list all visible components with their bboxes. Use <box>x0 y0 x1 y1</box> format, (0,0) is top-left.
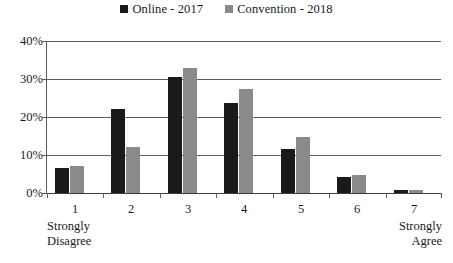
x-category-4: 4 <box>216 202 272 217</box>
x-axis-line <box>46 193 441 194</box>
y-tick-label: 20% <box>3 111 43 124</box>
x-tick-mark <box>386 193 387 198</box>
x-tick-mark <box>160 193 161 198</box>
bar-group <box>103 41 159 193</box>
x-tick-label: 1 <box>47 202 103 217</box>
bar-online-2017 <box>337 177 351 193</box>
bar-group <box>47 41 103 193</box>
x-tick-label: 5 <box>273 202 329 217</box>
bar-online-2017 <box>55 168 69 193</box>
x-category-6: 6 <box>329 202 385 217</box>
y-tick-label: 30% <box>3 73 43 86</box>
x-category-7: 7 Strongly Agree <box>386 202 442 248</box>
y-axis-labels: 40% 30% 20% 10% 0% <box>0 0 43 263</box>
bar-group <box>216 41 272 193</box>
x-category-5: 5 <box>273 202 329 217</box>
bar-online-2017 <box>111 109 125 193</box>
x-category-3: 3 <box>160 202 216 217</box>
x-category-1: 1 Strongly Disagree <box>47 202 103 248</box>
legend-swatch-icon <box>120 5 128 13</box>
x-tick-label: 2 <box>103 202 159 217</box>
y-tick-label: 40% <box>3 35 43 48</box>
bar-chart: Online - 2017 Convention - 2018 40% 30% … <box>0 0 453 263</box>
x-tick-mark <box>441 193 442 198</box>
bar-convention-2018 <box>126 147 140 193</box>
x-tick-mark <box>216 193 217 198</box>
bar-online-2017 <box>394 190 408 193</box>
bar-group <box>160 41 216 193</box>
bar-convention-2018 <box>183 68 197 193</box>
legend-label: Online - 2017 <box>132 3 203 16</box>
x-tick-label: 3 <box>160 202 216 217</box>
bar-convention-2018 <box>296 137 310 193</box>
x-axis-endpoint-label: Strongly Agree <box>386 219 442 249</box>
x-tick-label: 4 <box>216 202 272 217</box>
x-tick-mark <box>103 193 104 198</box>
legend-entry-online-2017: Online - 2017 <box>120 3 203 16</box>
plot-area <box>47 41 441 193</box>
bar-convention-2018 <box>352 175 366 193</box>
bar-convention-2018 <box>70 166 84 193</box>
chart-legend: Online - 2017 Convention - 2018 <box>0 3 453 16</box>
x-tick-label: 7 <box>386 202 442 217</box>
bar-online-2017 <box>224 103 238 193</box>
bar-online-2017 <box>281 149 295 193</box>
x-tick-label: 6 <box>329 202 385 217</box>
bar-group <box>386 41 442 193</box>
bar-group <box>273 41 329 193</box>
bar-group <box>329 41 385 193</box>
y-tick-label: 10% <box>3 149 43 162</box>
x-tick-mark <box>273 193 274 198</box>
legend-entry-convention-2018: Convention - 2018 <box>225 3 332 16</box>
x-tick-mark <box>329 193 330 198</box>
bar-online-2017 <box>168 77 182 193</box>
x-category-2: 2 <box>103 202 159 217</box>
x-tick-mark <box>47 193 48 198</box>
legend-swatch-icon <box>225 5 233 13</box>
bar-convention-2018 <box>239 89 253 194</box>
bar-convention-2018 <box>409 190 423 193</box>
y-tick-label: 0% <box>3 187 43 200</box>
legend-label: Convention - 2018 <box>237 3 332 16</box>
x-axis-endpoint-label: Strongly Disagree <box>47 219 103 249</box>
